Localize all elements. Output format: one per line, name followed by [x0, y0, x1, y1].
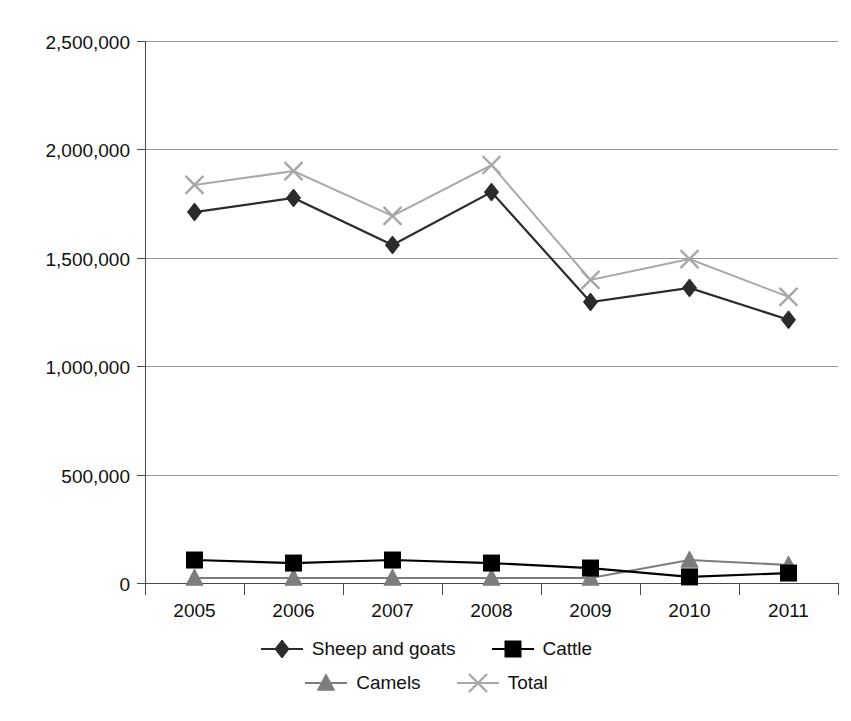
legend-label: Cattle — [543, 638, 593, 660]
square-marker — [682, 569, 698, 585]
square-marker — [484, 555, 500, 571]
y-tick-label: 0 — [119, 574, 130, 595]
marker-diamond — [385, 236, 399, 254]
legend-row-1: Sheep and goatsCattle — [0, 632, 851, 666]
marker-diamond — [275, 640, 289, 658]
diamond-marker — [286, 189, 300, 207]
legend-marker-cross — [455, 670, 501, 696]
line-chart: 0500,0001,000,0001,500,0002,000,0002,500… — [0, 0, 851, 721]
legend-label: Camels — [356, 672, 420, 694]
marker-cross — [384, 207, 402, 225]
x-tick-label: 2005 — [173, 600, 215, 621]
diamond-marker — [187, 203, 201, 221]
series-total — [186, 156, 798, 306]
marker-cross — [681, 250, 699, 268]
x-tick-label: 2007 — [371, 600, 413, 621]
y-tick-label: 2,500,000 — [45, 32, 130, 53]
legend-entry-sheep-and-goats[interactable]: Sheep and goats — [259, 636, 456, 662]
marker-square — [583, 560, 599, 576]
marker-square — [385, 552, 401, 568]
axes — [145, 41, 838, 595]
chart-plot-area: 0500,0001,000,0001,500,0002,000,0002,500… — [0, 0, 851, 721]
chart-legend: Sheep and goatsCattle CamelsTotal — [0, 632, 851, 700]
diamond-marker — [781, 311, 795, 329]
y-tick-label: 500,000 — [61, 466, 130, 487]
x-tick-label: 2009 — [569, 600, 611, 621]
square-marker — [583, 560, 599, 576]
series-line — [195, 192, 789, 320]
legend-label: Total — [508, 672, 548, 694]
marker-square — [781, 565, 797, 581]
legend-marker-triangle — [303, 670, 349, 696]
legend-marker-diamond — [259, 636, 305, 662]
marker-diamond — [781, 311, 795, 329]
square-marker — [187, 552, 203, 568]
y-tick-label: 1,000,000 — [45, 357, 130, 378]
diamond-marker — [275, 640, 289, 658]
x-tick-label: 2006 — [272, 600, 314, 621]
y-gridlines: 0500,0001,000,0001,500,0002,000,0002,500… — [45, 32, 838, 595]
marker-square — [682, 569, 698, 585]
legend-entry-cattle[interactable]: Cattle — [490, 636, 593, 662]
legend-entry-total[interactable]: Total — [455, 670, 548, 696]
triangle-marker — [681, 551, 698, 567]
x-tick-label: 2008 — [470, 600, 512, 621]
marker-cross — [780, 288, 798, 306]
series-sheep-and-goats — [187, 183, 795, 329]
square-marker — [385, 552, 401, 568]
marker-diamond — [682, 279, 696, 297]
marker-square — [505, 641, 521, 657]
legend-label: Sheep and goats — [312, 638, 456, 660]
y-tick-label: 1,500,000 — [45, 249, 130, 270]
marker-triangle — [681, 551, 698, 567]
marker-square — [484, 555, 500, 571]
square-marker — [505, 641, 521, 657]
marker-diamond — [187, 203, 201, 221]
diamond-marker — [682, 279, 696, 297]
x-tick-label: 2010 — [668, 600, 710, 621]
marker-square — [286, 555, 302, 571]
x-axis-ticks: 2005200620072008200920102011 — [146, 583, 839, 621]
legend-marker-square — [490, 636, 536, 662]
x-tick-label: 2011 — [768, 600, 809, 621]
square-marker — [781, 565, 797, 581]
legend-entry-camels[interactable]: Camels — [303, 670, 420, 696]
diamond-marker — [385, 236, 399, 254]
y-tick-label: 2,000,000 — [45, 140, 130, 161]
marker-diamond — [286, 189, 300, 207]
marker-cross — [582, 271, 600, 289]
marker-square — [187, 552, 203, 568]
marker-cross — [483, 156, 501, 174]
legend-row-2: CamelsTotal — [0, 666, 851, 700]
square-marker — [286, 555, 302, 571]
